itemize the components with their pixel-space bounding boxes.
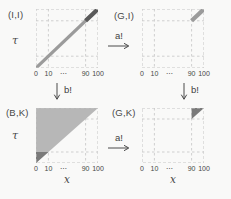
tick-label: 90 bbox=[188, 70, 196, 77]
plot-GK-graphic bbox=[142, 108, 204, 163]
tau-axis-label-top: τ bbox=[12, 34, 18, 47]
tick-label: 0 bbox=[34, 70, 38, 77]
highlighted-diagonal-segment bbox=[86, 9, 98, 21]
plot-II-graphic bbox=[36, 9, 98, 68]
panel-label-BK: (B,K) bbox=[6, 107, 29, 118]
plot-II bbox=[36, 9, 98, 68]
figure-canvas: (I,I) τ 0 10 ⋯ 90 100 (G,I) 0 bbox=[0, 0, 231, 199]
plot-BK bbox=[36, 108, 98, 163]
tick-label: ⋯ bbox=[166, 70, 173, 78]
tick-label: 100 bbox=[198, 70, 210, 77]
plot-GI bbox=[142, 9, 204, 68]
tick-label: 0 bbox=[140, 165, 144, 172]
panel-label-GK: (G,K) bbox=[112, 107, 136, 118]
x-axis-label-right: x bbox=[142, 173, 204, 185]
plot-GK bbox=[142, 108, 204, 163]
panel-label-GI: (G,I) bbox=[114, 10, 134, 21]
down-arrow-icon bbox=[52, 83, 62, 101]
arrow-a-top: a! bbox=[106, 31, 132, 50]
plot-BK-graphic bbox=[36, 108, 98, 163]
tick-label: 10 bbox=[150, 165, 158, 172]
tick-label: 0 bbox=[34, 165, 38, 172]
down-arrow-icon bbox=[179, 83, 189, 101]
tick-label: 10 bbox=[150, 70, 158, 77]
arrow-b-right: b! bbox=[179, 83, 199, 101]
x-axis-label-left: x bbox=[36, 173, 98, 185]
tick-label: 0 bbox=[140, 70, 144, 77]
tick-label: 100 bbox=[92, 70, 104, 77]
right-arrow-icon bbox=[107, 42, 131, 50]
arrow-b-left: b! bbox=[52, 83, 72, 101]
tick-label: 90 bbox=[82, 165, 90, 172]
dark-corner-triangle bbox=[192, 108, 204, 119]
tau-axis-label-bottom: τ bbox=[12, 129, 18, 142]
x-ticks-GI: 0 10 ⋯ 90 100 bbox=[142, 70, 204, 79]
arrow-b-right-label: b! bbox=[191, 83, 199, 97]
tick-label: ⋯ bbox=[60, 70, 67, 78]
arrow-a-top-label: a! bbox=[115, 30, 123, 41]
tick-label: 90 bbox=[188, 165, 196, 172]
x-ticks-II: 0 10 ⋯ 90 100 bbox=[36, 70, 98, 79]
tick-label: 10 bbox=[44, 165, 52, 172]
arrow-b-left-label: b! bbox=[64, 83, 72, 97]
tick-label: ⋯ bbox=[60, 165, 67, 173]
tick-label: 100 bbox=[198, 165, 210, 172]
tick-label: 10 bbox=[44, 70, 52, 77]
tick-label: 100 bbox=[92, 165, 104, 172]
right-arrow-icon bbox=[107, 144, 131, 152]
panel-label-II: (I,I) bbox=[8, 9, 23, 20]
arrow-a-bottom-label: a! bbox=[115, 132, 123, 143]
diagonal-segment bbox=[192, 9, 204, 21]
tick-label: ⋯ bbox=[166, 165, 173, 173]
plot-GI-graphic bbox=[142, 9, 204, 68]
arrow-a-bottom: a! bbox=[106, 133, 132, 152]
tick-label: 90 bbox=[82, 70, 90, 77]
